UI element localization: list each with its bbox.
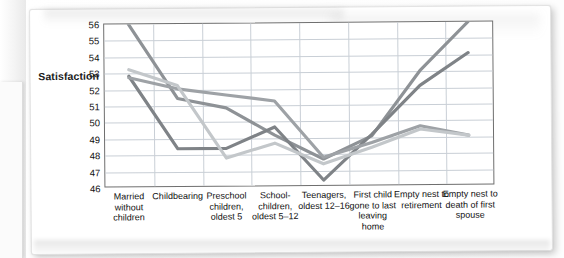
y-tick-label: 47: [90, 167, 101, 178]
y-tick-label: 56: [89, 19, 100, 30]
y-tick-label: 49: [89, 134, 100, 145]
y-tick-label: 55: [89, 36, 100, 47]
line-chart: 4647484950515253545556 Married without c…: [103, 14, 509, 247]
y-tick-label: 54: [89, 52, 100, 63]
x-tick-label: Empty nest to death of first spouse: [441, 188, 500, 220]
y-tick-label: 52: [89, 85, 100, 96]
series-line: [129, 67, 469, 165]
series-lines: [104, 22, 493, 187]
plot-area: 4647484950515253545556: [103, 21, 494, 188]
adjacent-page-edge: [0, 82, 23, 258]
y-tick-label: 48: [90, 150, 101, 161]
y-tick-label: 53: [89, 68, 100, 79]
y-tick-label: 50: [89, 118, 100, 129]
y-tick-label: 51: [89, 101, 100, 112]
x-axis-labels: Married without childrenChildbearingPres…: [104, 189, 494, 248]
